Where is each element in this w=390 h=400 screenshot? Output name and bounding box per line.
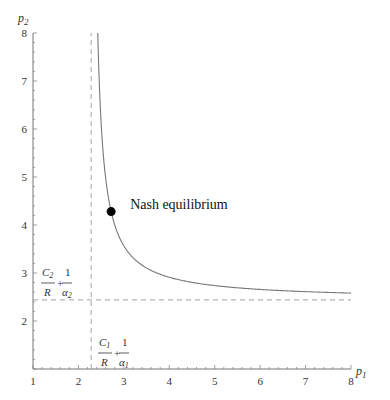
chart: 123456782345678 Nash equilibrium p2 p1 C… [0,0,390,400]
y-tick-label: 3 [22,267,28,279]
nash-equilibrium-point [107,207,116,216]
y-tick-label: 2 [22,315,28,327]
x-tick-label: 3 [121,375,127,387]
svg-text:1: 1 [65,266,71,278]
svg-text:C2: C2 [42,266,53,280]
svg-text:α2: α2 [62,286,72,300]
best-response-curve [98,33,351,293]
x-tick-label: 4 [167,375,173,387]
svg-text:1: 1 [122,336,128,348]
x-tick-label: 5 [212,375,218,387]
svg-text:C1: C1 [99,336,110,350]
vertical-asymptote-label: C1 R + 1 α1 [98,336,129,370]
nash-equilibrium-label: Nash equilibrium [130,197,228,212]
svg-text:R: R [100,356,108,368]
x-tick-label: 8 [348,375,354,387]
svg-text:R: R [43,286,51,298]
y-tick-label: 8 [22,27,28,39]
y-tick-label: 6 [22,123,28,135]
x-tick-label: 7 [303,375,309,387]
svg-text:α1: α1 [119,356,129,370]
x-tick-label: 2 [76,375,82,387]
x-tick-label: 6 [257,375,263,387]
y-axis-label: p2 [17,11,29,27]
y-tick-label: 4 [22,219,28,231]
x-tick-label: 1 [30,375,36,387]
x-axis-label: p1 [355,364,367,380]
horizontal-asymptote-label: C2 R + 1 α2 [41,266,72,300]
y-tick-label: 7 [22,75,28,87]
y-tick-label: 5 [22,171,28,183]
